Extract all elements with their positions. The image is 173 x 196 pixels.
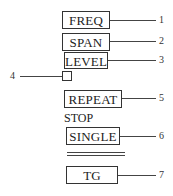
callout-line-4 (20, 76, 62, 77)
repeat-button[interactable]: REPEAT (64, 90, 122, 108)
callout-line-2 (110, 41, 156, 42)
callout-line-3 (108, 60, 156, 61)
span-button[interactable]: SPAN (62, 33, 110, 51)
callout-line-1 (110, 20, 156, 21)
tg-button[interactable]: TG (66, 166, 118, 184)
level-button[interactable]: LEVEL (64, 52, 108, 69)
callout-line-6 (120, 136, 156, 137)
callout-number-2: 2 (159, 35, 164, 47)
callout-line-7 (118, 175, 156, 176)
stop-label: STOP (64, 111, 93, 125)
callout-line-5 (122, 98, 156, 99)
single-button[interactable]: SINGLE (66, 127, 120, 145)
callout-number-6: 6 (159, 130, 164, 142)
callout-number-3: 3 (159, 54, 164, 66)
callout-number-7: 7 (159, 169, 164, 181)
indicator-lamp (62, 71, 72, 81)
callout-number-1: 1 (159, 14, 164, 26)
double-divider (67, 152, 125, 156)
callout-number-5: 5 (159, 92, 164, 104)
freq-button[interactable]: FREQ (62, 11, 110, 29)
callout-number-4: 4 (10, 70, 15, 82)
